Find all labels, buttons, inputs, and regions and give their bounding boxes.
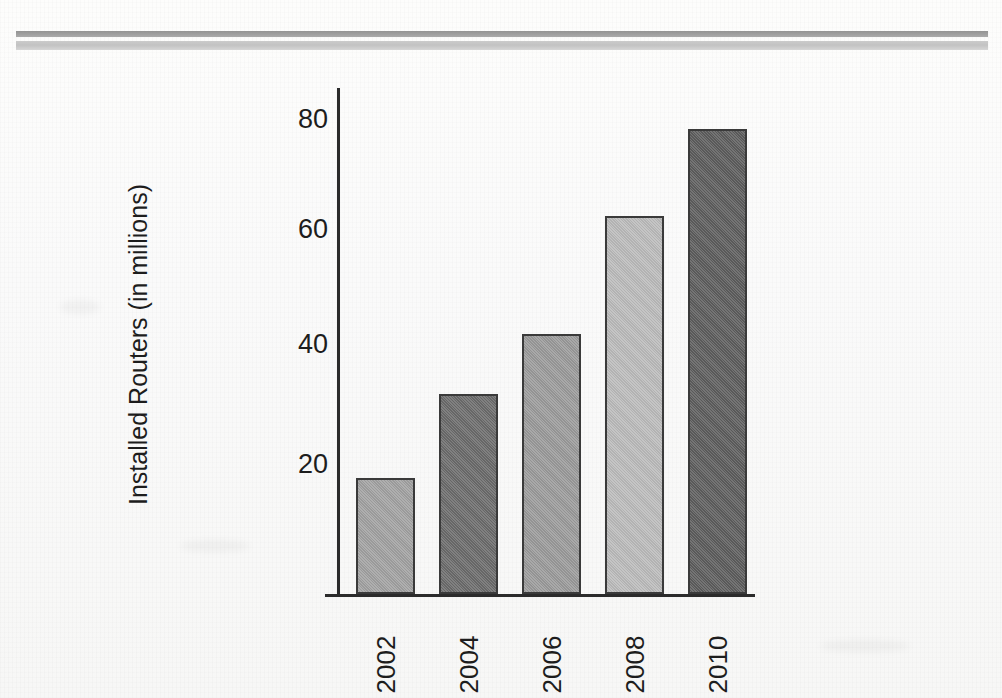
bar-2006[interactable] [522,334,581,594]
x-axis-line [325,594,755,597]
y-tick-label: 20 [268,449,328,480]
y-tick-80: 80 [256,104,328,136]
x-tick-2006: 2006 [521,604,583,694]
y-tick-20: 20 [256,449,328,481]
y-tick-label: 40 [268,329,328,360]
y-tick-40: 40 [256,329,328,361]
bar-2008[interactable] [605,216,664,594]
x-tick-2004: 2004 [438,604,500,694]
x-tick-label: 2010 [703,620,734,698]
y-axis-line [337,88,340,597]
y-axis-title: Installed Routers (in millions) [124,115,153,575]
x-tick-label: 2008 [620,620,651,698]
bar-2002[interactable] [356,478,415,594]
x-tick-label: 2006 [537,620,568,698]
x-tick-2010: 2010 [687,604,749,694]
y-tick-60: 60 [256,214,328,246]
bar-chart: Installed Routers (in millions) 80 60 40… [0,0,1002,698]
x-tick-2008: 2008 [604,604,666,694]
scanned-page: Installed Routers (in millions) 80 60 40… [0,0,1002,698]
y-tick-label: 80 [268,104,328,135]
y-tick-label: 60 [268,214,328,245]
x-tick-2002: 2002 [355,604,417,694]
bar-2004[interactable] [439,394,498,594]
x-tick-label: 2002 [371,620,402,698]
bar-2010[interactable] [688,129,747,594]
x-tick-label: 2004 [454,620,485,698]
